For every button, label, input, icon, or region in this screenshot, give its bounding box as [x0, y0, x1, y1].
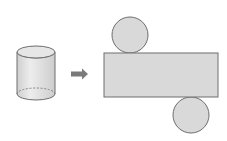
cylinder-body	[17, 52, 55, 100]
cylinder-solid	[17, 46, 55, 100]
cylinder-top-face	[17, 46, 55, 58]
net-top-circle	[112, 17, 148, 53]
cylinder-net	[104, 17, 218, 133]
arrow-right-icon	[71, 69, 88, 80]
net-bottom-circle	[173, 97, 209, 133]
diagram-canvas	[0, 0, 227, 141]
net-lateral-rectangle	[104, 53, 218, 97]
cylinder-net-diagram	[0, 0, 227, 141]
